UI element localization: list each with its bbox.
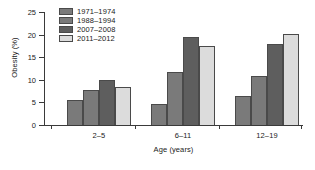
y-axis-tick-label: 20: [0, 30, 36, 39]
bar: [199, 46, 215, 125]
bar: [283, 34, 299, 125]
legend-label: 1988–1994: [77, 16, 115, 25]
bar: [67, 100, 83, 125]
x-axis-title: Age (years): [45, 145, 302, 154]
legend-item: 2007–2008: [59, 25, 115, 34]
legend-label: 2011–2012: [77, 34, 115, 43]
legend-swatch: [59, 26, 73, 33]
x-axis-tick: [51, 125, 52, 129]
legend-swatch: [59, 17, 73, 24]
bar: [235, 96, 251, 125]
x-axis-line: [44, 125, 303, 126]
x-axis-tick: [135, 125, 136, 129]
legend: 1971–19741988–19942007–20082011–2012: [59, 7, 115, 43]
y-axis-tick-label: 0: [0, 121, 36, 130]
bar: [183, 37, 199, 125]
y-axis-tick-label: 25: [0, 8, 36, 17]
y-axis-tick-label: 15: [0, 53, 36, 62]
y-axis-tick: [39, 102, 44, 103]
y-axis-tick: [39, 57, 44, 58]
y-axis-tick-label: 10: [0, 75, 36, 84]
legend-item: 1971–1974: [59, 7, 115, 16]
legend-label: 2007–2008: [77, 25, 115, 34]
bar: [267, 44, 283, 125]
bar-group: [151, 12, 215, 125]
legend-item: 2011–2012: [59, 34, 115, 43]
obesity-by-age-bar-chart: Obesity (%) 0510152025 2–56–1112–19 Age …: [0, 0, 315, 170]
y-axis-tick: [39, 80, 44, 81]
legend-item: 1988–1994: [59, 16, 115, 25]
x-axis-category-label: 12–19: [232, 131, 302, 140]
y-axis-tick: [39, 35, 44, 36]
y-axis-tick: [39, 12, 44, 13]
x-axis-category-label: 2–5: [64, 131, 134, 140]
y-axis-tick-label: 5: [0, 98, 36, 107]
legend-swatch: [59, 35, 73, 42]
bar: [83, 90, 99, 125]
legend-label: 1971–1974: [77, 7, 115, 16]
bar: [151, 104, 167, 125]
bar: [99, 80, 115, 125]
bar: [251, 76, 267, 125]
bar: [115, 87, 131, 125]
bar-group: [235, 12, 299, 125]
bar: [167, 72, 183, 125]
x-axis-category-label: 6–11: [148, 131, 218, 140]
legend-swatch: [59, 8, 73, 15]
x-axis-tick: [301, 125, 302, 129]
x-axis-tick: [219, 125, 220, 129]
